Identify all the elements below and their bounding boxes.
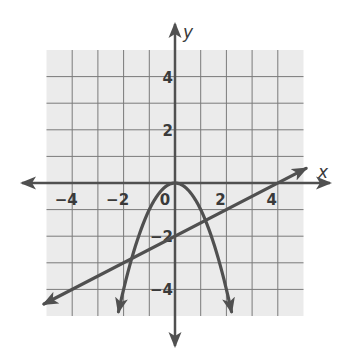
- x-tick-label: 2: [215, 191, 225, 209]
- x-tick-label: −4: [55, 191, 78, 209]
- coordinate-plane: −4−202442−2−4 x y: [0, 0, 349, 355]
- y-axis-label: y: [182, 22, 194, 42]
- y-tick-label: 2: [163, 122, 173, 140]
- y-tick-label: 4: [163, 69, 173, 87]
- x-tick-label: 0: [160, 191, 170, 209]
- y-tick-label: −4: [150, 281, 173, 299]
- x-axis-label: x: [317, 162, 329, 182]
- x-tick-label: 4: [267, 191, 277, 209]
- x-tick-label: −2: [106, 191, 129, 209]
